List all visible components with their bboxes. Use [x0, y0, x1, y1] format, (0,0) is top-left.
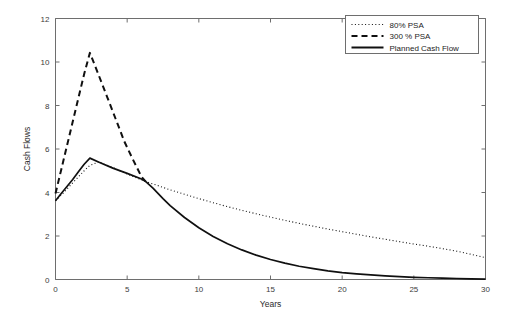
x-tick-label: 20	[338, 285, 347, 294]
axis-frame	[56, 19, 486, 280]
y-tick-label: 10	[41, 58, 50, 67]
plot-frame	[56, 19, 486, 280]
x-tick-label: 10	[194, 285, 203, 294]
x-axis-ticks	[56, 19, 486, 280]
x-tick-label: 0	[53, 285, 58, 294]
y-tick-label: 0	[45, 276, 50, 285]
chart-legend: 80% PSA300 % PSAPlanned Cash Flow	[346, 16, 479, 54]
x-axis-title: Years	[260, 299, 281, 309]
data-series-group	[56, 53, 486, 279]
x-tick-label: 15	[266, 285, 275, 294]
y-tick-label: 4	[45, 189, 50, 198]
y-axis-tick-labels: 024681012	[41, 15, 50, 285]
series-line-1	[56, 53, 146, 194]
y-axis-title: Cash Flows	[22, 127, 32, 171]
y-axis-ticks	[56, 19, 486, 280]
series-line-2	[56, 158, 486, 279]
chart-figure: 051015202530 024681012 Years Cash Flows …	[0, 0, 517, 315]
legend-label-1: 300 % PSA	[390, 32, 432, 41]
y-tick-label: 8	[45, 102, 50, 111]
legend-label-2: Planned Cash Flow	[390, 44, 460, 53]
x-axis-tick-labels: 051015202530	[53, 285, 490, 294]
cash-flow-line-chart: 051015202530 024681012 Years Cash Flows …	[0, 0, 517, 315]
series-line-0	[56, 162, 486, 258]
y-tick-label: 2	[45, 232, 50, 241]
x-tick-label: 5	[125, 285, 130, 294]
legend-label-0: 80% PSA	[390, 21, 425, 30]
y-tick-label: 6	[45, 145, 50, 154]
x-tick-label: 30	[481, 285, 490, 294]
x-tick-label: 25	[409, 285, 418, 294]
y-tick-label: 12	[41, 15, 50, 24]
